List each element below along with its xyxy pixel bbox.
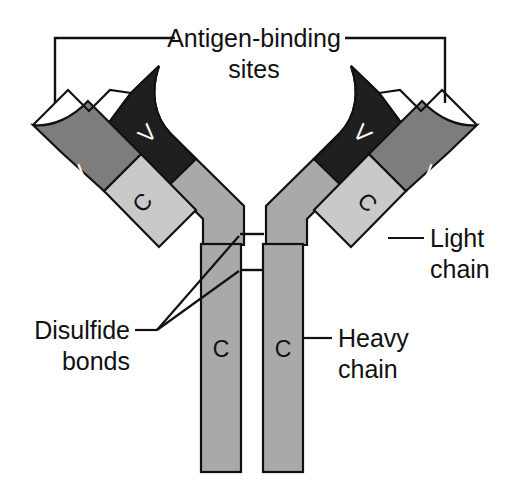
antigen-binding-label-line1: Antigen-binding (167, 24, 341, 52)
heavy-chain-label-line1: Heavy (338, 324, 409, 352)
left-heavy-constant-letter: C (213, 336, 230, 362)
disulfide-label-line2: bonds (62, 347, 130, 375)
antibody-diagram-figure: V V C V V C C (0, 0, 510, 493)
antibody-diagram-canvas: V V C V V C C (0, 0, 510, 493)
heavy-chain-stems: C C (201, 244, 303, 472)
light-chain-label-line2: chain (430, 255, 490, 283)
light-chain-label-line1: Light (430, 224, 484, 252)
heavy-chain-label-line2: chain (338, 355, 398, 383)
right-heavy-constant-letter: C (275, 336, 292, 362)
antigen-binding-label-line2: sites (228, 55, 279, 83)
disulfide-label-line1: Disulfide (34, 316, 130, 344)
